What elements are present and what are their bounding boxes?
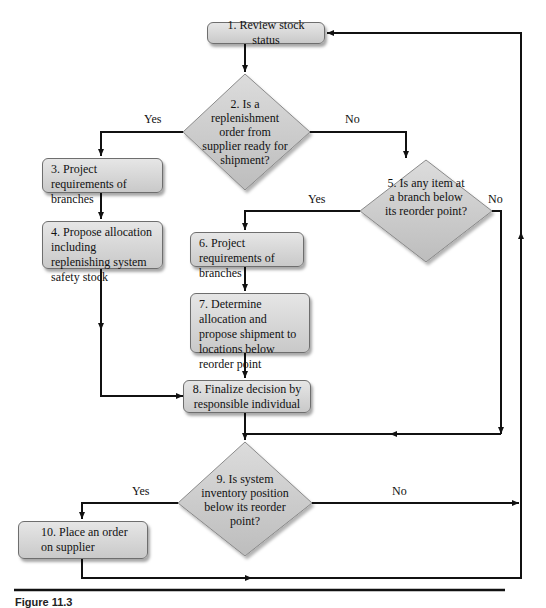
node-1-text: 1. Review stock status: [216, 18, 316, 48]
decision-5-no-label: No: [488, 192, 503, 207]
decision-9-no-label: No: [392, 484, 407, 499]
node-10-text: 10. Place an order on supplier: [41, 525, 128, 554]
node-8-text: 8. Finalize decision by responsible indi…: [192, 382, 302, 412]
process-box-3: 3. Project requirements of branches: [42, 158, 163, 193]
decision-2-text: 2. Is a replenishment order from supplie…: [200, 97, 290, 167]
process-box-6: 6. Project requirements of branches: [190, 232, 304, 267]
decision-5-text: 5. Is any item at a branch below its reo…: [384, 176, 468, 218]
decision-2-yes-label: Yes: [144, 112, 161, 127]
decision-9-yes-label: Yes: [132, 484, 149, 499]
process-box-8: 8. Finalize decision by responsible indi…: [183, 380, 311, 413]
process-box-10: 10. Place an order on supplier: [18, 521, 148, 559]
decision-2-no-label: No: [345, 112, 360, 127]
decision-5-yes-label: Yes: [308, 192, 325, 207]
figure-caption: Figure 11.3: [15, 596, 72, 608]
decision-9-text: 9. Is system inventory position below it…: [195, 472, 295, 528]
process-box-1: 1. Review stock status: [207, 22, 325, 44]
process-box-4: 4. Propose allocation including replenis…: [42, 221, 163, 269]
process-box-7: 7. Determine allocation and propose ship…: [190, 293, 310, 353]
